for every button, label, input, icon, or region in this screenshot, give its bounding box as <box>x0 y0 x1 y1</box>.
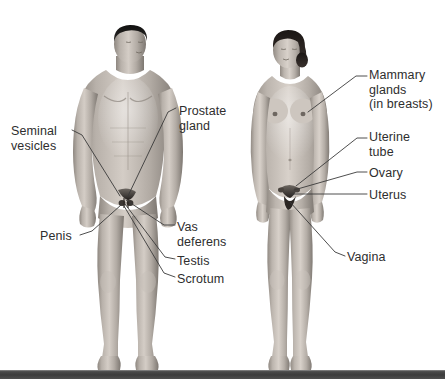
label-uterine-tube: Uterine tube <box>369 130 410 159</box>
label-scrotum: Scrotum <box>177 272 224 287</box>
female-figure <box>251 30 330 370</box>
male-figure <box>73 25 183 370</box>
label-prostate-gland: Prostate gland <box>179 104 226 133</box>
label-testis: Testis <box>177 254 210 269</box>
label-vas-deferens: Vas deferens <box>177 220 226 249</box>
label-seminal-vesicles: Seminal vesicles <box>11 124 57 153</box>
label-ovary: Ovary <box>369 166 403 181</box>
label-vagina: Vagina <box>347 250 386 265</box>
label-mammary-glands: Mammary glands (in breasts) <box>369 68 433 112</box>
floor-band <box>0 370 445 379</box>
label-penis: Penis <box>40 229 72 244</box>
anatomy-figure-page: Prostate gland Seminal vesicles Penis Va… <box>0 0 445 379</box>
label-uterus: Uterus <box>369 188 406 203</box>
